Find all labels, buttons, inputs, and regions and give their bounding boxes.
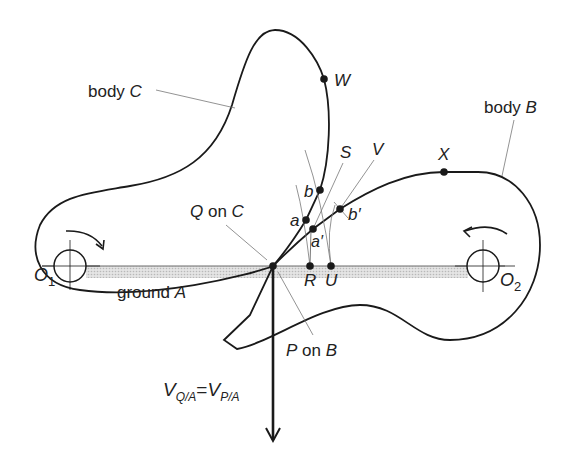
label-s: S	[340, 143, 352, 162]
leader-q-on-c	[226, 225, 267, 260]
label-o2: O2	[500, 270, 521, 294]
label-q-on-c: Q on C	[190, 202, 245, 221]
label-x: X	[437, 145, 450, 164]
ground-band	[86, 266, 468, 278]
label-b-prime: b′	[348, 205, 361, 224]
rotation-arrow-cw-icon	[66, 231, 104, 249]
label-v: V	[372, 140, 385, 159]
rotation-arrow-ccw-icon	[464, 227, 507, 237]
point-r	[306, 262, 314, 270]
leader-body-b	[502, 120, 514, 176]
label-b: b	[304, 182, 313, 201]
label-body-c: body C	[88, 82, 143, 101]
label-o1: O1	[34, 265, 55, 289]
velocity-arrow	[266, 266, 280, 441]
point-b-prime	[336, 205, 344, 213]
point-x	[440, 168, 448, 176]
leader-body-c	[156, 90, 235, 108]
point-u	[327, 262, 335, 270]
point-a	[302, 216, 310, 224]
point-b	[316, 186, 324, 194]
label-p-on-b: P on B	[286, 341, 337, 360]
label-velocity-equation: VQ/A=VP/A	[163, 379, 240, 404]
label-ground-a: ground A	[117, 283, 186, 302]
label-u: U	[325, 271, 338, 290]
kinematics-diagram: body C body B ground A O1 O2 W X S V a a…	[0, 0, 563, 450]
leader-v	[340, 160, 374, 209]
label-a: a	[290, 211, 299, 230]
label-body-b: body B	[484, 98, 537, 117]
point-w	[320, 75, 328, 83]
point-contact	[269, 262, 277, 270]
label-w: W	[334, 71, 352, 90]
point-a-prime	[309, 225, 317, 233]
label-r: R	[304, 271, 316, 290]
label-a-prime: a′	[311, 233, 324, 250]
